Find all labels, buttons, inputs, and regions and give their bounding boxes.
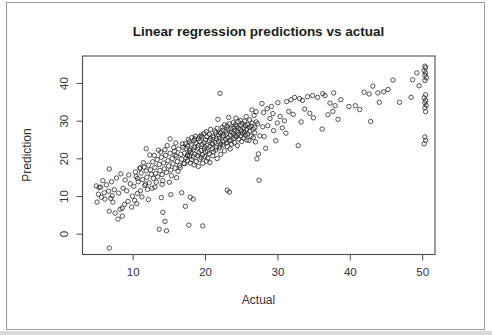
r-plot-figure: 1020304050010203040 Linear regression pr… [0,0,492,335]
data-point [148,168,152,172]
y-tick-label: 0 [59,231,71,237]
chart-title: Linear regression predictions vs actual [82,24,435,39]
y-axis-label: Prediction [20,128,34,181]
data-point [235,143,239,147]
data-point [215,156,219,160]
data-point [278,114,282,118]
data-point [397,100,401,104]
y-tick-label: 20 [59,152,71,165]
data-point [266,124,270,128]
data-point [138,189,142,193]
data-point [150,186,154,190]
data-point [95,200,99,204]
data-point [333,104,337,108]
data-point [157,162,161,166]
data-point [160,172,164,176]
data-point [262,134,266,138]
data-point [391,78,395,82]
data-point [157,227,161,231]
data-point [159,195,163,199]
scatter-plot: 1020304050010203040 [0,0,492,335]
data-point [99,195,103,199]
data-point [126,199,130,203]
data-point [339,98,343,102]
data-point [362,90,366,94]
data-point [113,211,117,215]
data-point [347,104,351,108]
data-point [287,109,291,113]
data-point [156,175,160,179]
data-point [299,120,303,124]
data-point [255,157,259,161]
data-point [107,167,111,171]
data-point [303,107,307,111]
data-point [358,107,362,111]
y-tick-label: 40 [59,77,71,90]
data-point [127,173,131,177]
y-tick-label: 10 [59,190,71,203]
data-point [116,217,120,221]
data-point [101,179,105,183]
data-point [145,175,149,179]
x-tick-label: 40 [344,266,357,278]
y-tick-label: 30 [59,115,71,128]
data-point [244,114,248,118]
data-point [114,176,118,180]
data-point [371,84,375,88]
data-point [102,191,106,195]
data-point [320,127,324,131]
data-point [167,180,171,184]
data-point [169,168,173,172]
data-point [168,137,172,141]
plot-box [83,56,436,255]
data-point [106,189,110,193]
data-point [216,117,220,121]
data-point [169,174,173,178]
data-point [274,139,278,143]
data-point [153,165,157,169]
data-point [284,99,288,103]
data-point [140,177,144,181]
data-point [227,115,231,119]
data-point [159,155,163,159]
data-point [336,117,340,121]
data-point [154,180,158,184]
data-point [263,146,267,150]
data-point [201,224,205,228]
data-point [165,143,169,147]
data-point [153,185,157,189]
data-point [282,119,286,123]
data-point [139,171,143,175]
data-point [326,113,330,117]
data-point [261,110,265,114]
data-point [280,126,284,130]
data-point [417,84,421,88]
data-point [125,189,129,193]
data-point [328,101,332,105]
data-point [161,161,165,165]
data-point [144,147,148,151]
data-point [368,119,372,123]
data-point [146,197,150,201]
data-point [104,183,108,187]
data-point [261,125,265,129]
data-point [107,246,111,250]
data-point [174,176,178,180]
data-point [120,214,124,218]
data-point [161,210,165,214]
data-point [386,87,390,91]
data-point [171,162,175,166]
data-point [119,172,123,176]
data-point [254,110,258,114]
x-tick-label: 20 [199,266,212,278]
data-point [228,147,232,151]
data-point [146,163,150,167]
data-point [180,191,184,195]
data-point [332,91,336,95]
data-point [112,188,116,192]
data-point [180,157,184,161]
data-point [376,91,380,95]
data-point [177,147,181,151]
data-point [164,229,168,233]
data-point [248,118,252,122]
